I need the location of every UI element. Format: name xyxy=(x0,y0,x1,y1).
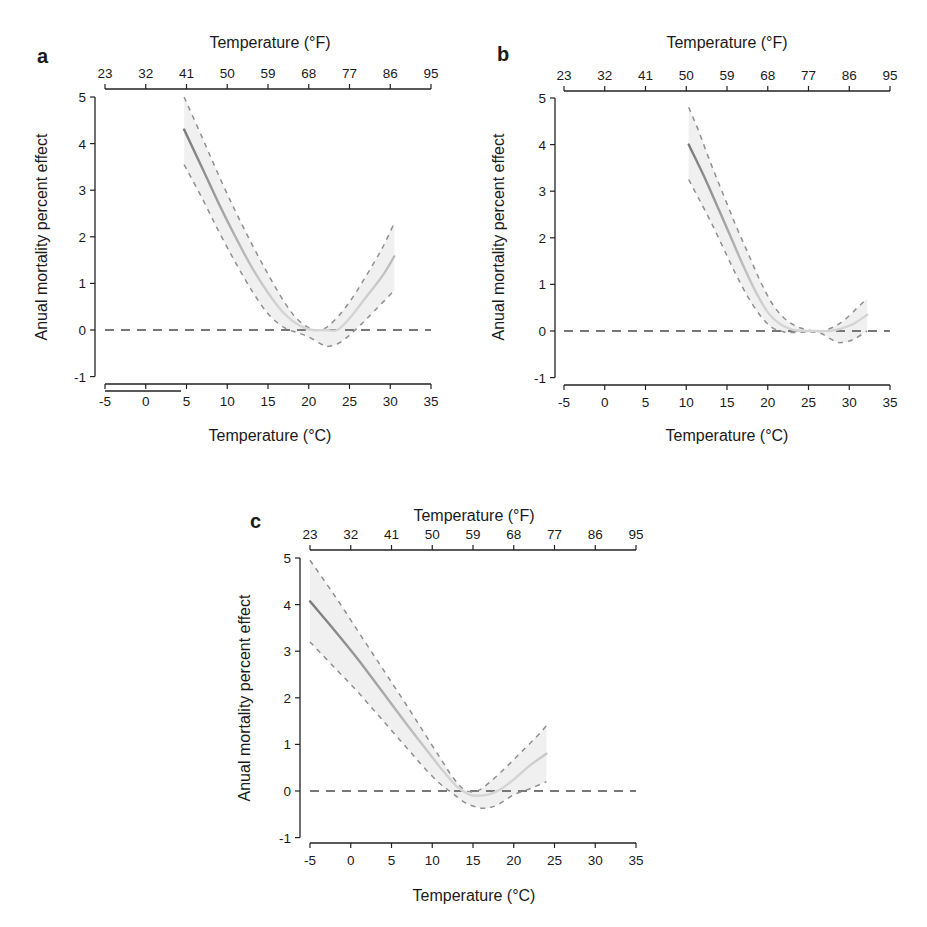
x-tick-label: 5 xyxy=(183,394,191,409)
x2-tick-label: 41 xyxy=(179,66,194,81)
y-tick-label: 2 xyxy=(538,231,546,246)
x-tick-label: 10 xyxy=(220,394,235,409)
x2-tick-label: 23 xyxy=(97,66,112,81)
x-tick-label: 30 xyxy=(588,853,603,868)
x-tick-label: 10 xyxy=(425,853,440,868)
plot-area-a: -1012345-5051015202530352332415059687786… xyxy=(74,66,439,409)
x2-tick-label: 23 xyxy=(556,68,571,83)
y-tick-label: 1 xyxy=(283,737,291,752)
y-tick-label: 5 xyxy=(283,551,291,566)
x-tick-label: 35 xyxy=(882,395,897,410)
x-tick-label: 35 xyxy=(423,394,438,409)
x2-axis-title-c: Temperature (°F) xyxy=(413,507,534,524)
x-tick-label: -5 xyxy=(558,395,570,410)
x2-tick-label: 41 xyxy=(384,527,399,542)
y-tick-label: 3 xyxy=(283,644,291,659)
x2-tick-label: 50 xyxy=(220,66,235,81)
y-tick-label: 2 xyxy=(78,230,86,245)
x-tick-label: 25 xyxy=(547,853,562,868)
y-tick-label: 3 xyxy=(538,184,546,199)
x2-tick-label: 95 xyxy=(882,68,897,83)
y-tick-label: 5 xyxy=(78,90,86,105)
x2-tick-label: 32 xyxy=(343,527,358,542)
confidence-band xyxy=(689,107,868,342)
x-axis-title-b: Temperature (°C) xyxy=(666,427,789,444)
x2-tick-label: 41 xyxy=(638,68,653,83)
x-tick-label: 25 xyxy=(342,394,357,409)
y-tick-label: 4 xyxy=(78,137,86,152)
x2-tick-label: 95 xyxy=(423,66,438,81)
x2-tick-label: 59 xyxy=(260,66,275,81)
y-tick-label: 3 xyxy=(78,183,86,198)
panel-letter-b: b xyxy=(497,43,509,65)
x-tick-label: 5 xyxy=(388,853,396,868)
x-tick-label: 20 xyxy=(506,853,521,868)
confidence-band xyxy=(310,560,546,808)
confidence-band xyxy=(184,97,394,346)
x-tick-label: 15 xyxy=(465,853,480,868)
x-tick-label: 0 xyxy=(142,394,150,409)
x-tick-label: 20 xyxy=(760,395,775,410)
x-tick-label: -5 xyxy=(304,853,316,868)
x2-tick-label: 59 xyxy=(719,68,734,83)
plot-area-b: -1012345-5051015202530352332415059687786… xyxy=(534,68,898,410)
y-tick-label: 1 xyxy=(538,277,546,292)
x2-tick-label: 50 xyxy=(425,527,440,542)
panel-b: b Temperature (°F) Temperature (°C) Anua… xyxy=(490,34,898,444)
x-axis-title-c: Temperature (°C) xyxy=(413,887,536,904)
x2-tick-label: 77 xyxy=(801,68,816,83)
x2-axis-title-a: Temperature (°F) xyxy=(209,34,330,51)
x-tick-label: 15 xyxy=(260,394,275,409)
panel-a: a Temperature (°F) Temperature (°C) Anua… xyxy=(33,34,439,444)
x-tick-label: 35 xyxy=(628,853,643,868)
x-tick-label: 5 xyxy=(642,395,650,410)
y-axis-title-a: Anual mortality percent effect xyxy=(33,133,50,340)
x2-axis-title-b: Temperature (°F) xyxy=(666,34,787,51)
y-tick-label: -1 xyxy=(74,370,86,385)
x-tick-label: 25 xyxy=(801,395,816,410)
x2-tick-label: 68 xyxy=(506,527,521,542)
x-tick-label: 10 xyxy=(679,395,694,410)
x2-tick-label: 50 xyxy=(679,68,694,83)
y-tick-label: 4 xyxy=(283,598,291,613)
x2-tick-label: 86 xyxy=(588,527,603,542)
x-tick-label: 30 xyxy=(383,394,398,409)
x-tick-label: 15 xyxy=(719,395,734,410)
y-tick-label: 5 xyxy=(538,91,546,106)
x2-tick-label: 23 xyxy=(302,527,317,542)
y-tick-label: 0 xyxy=(78,323,86,338)
panel-c: c Temperature (°F) Temperature (°C) Anua… xyxy=(236,507,644,904)
effect-line xyxy=(184,130,394,331)
x2-tick-label: 32 xyxy=(597,68,612,83)
x2-tick-label: 68 xyxy=(301,66,316,81)
x-tick-label: 0 xyxy=(347,853,355,868)
x-tick-label: 20 xyxy=(301,394,316,409)
plot-area-c: -1012345-5051015202530352332415059687786… xyxy=(279,527,644,868)
y-tick-label: 1 xyxy=(78,276,86,291)
y-tick-label: -1 xyxy=(534,371,546,386)
y-tick-label: 0 xyxy=(283,784,291,799)
x2-tick-label: 68 xyxy=(760,68,775,83)
y-tick-label: 0 xyxy=(538,324,546,339)
figure: a Temperature (°F) Temperature (°C) Anua… xyxy=(0,0,927,927)
x-tick-label: 0 xyxy=(601,395,609,410)
x-axis-title-a: Temperature (°C) xyxy=(209,427,332,444)
x2-tick-label: 86 xyxy=(383,66,398,81)
x2-tick-label: 59 xyxy=(465,527,480,542)
x-tick-label: 30 xyxy=(842,395,857,410)
y-axis-title-b: Anual mortality percent effect xyxy=(490,133,507,340)
panel-letter-a: a xyxy=(37,45,49,67)
x2-tick-label: 77 xyxy=(342,66,357,81)
x2-tick-label: 32 xyxy=(138,66,153,81)
y-tick-label: -1 xyxy=(279,831,291,846)
y-axis-title-c: Anual mortality percent effect xyxy=(236,594,253,801)
panel-letter-c: c xyxy=(250,510,261,532)
effect-line xyxy=(689,145,868,332)
x2-tick-label: 86 xyxy=(842,68,857,83)
x-tick-label: -5 xyxy=(99,394,111,409)
x2-tick-label: 95 xyxy=(628,527,643,542)
y-tick-label: 2 xyxy=(283,691,291,706)
x2-tick-label: 77 xyxy=(547,527,562,542)
y-tick-label: 4 xyxy=(538,138,546,153)
